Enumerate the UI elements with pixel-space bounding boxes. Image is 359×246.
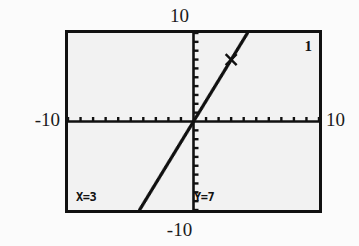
trace-x-readout: X=3 xyxy=(76,191,96,203)
x-max-label: 10 xyxy=(326,110,345,129)
graph-canvas xyxy=(68,33,319,210)
trace-y-readout: Y=7 xyxy=(194,191,214,203)
calculator-screen[interactable]: X=3 Y=7 1 xyxy=(65,30,322,213)
y-min-label: -10 xyxy=(0,220,359,239)
graph-geometry xyxy=(68,33,319,210)
x-min-label: -10 xyxy=(8,110,60,129)
y-max-label: 10 xyxy=(0,6,359,25)
plot-number-badge: 1 xyxy=(305,39,313,54)
plot-area[interactable] xyxy=(68,33,319,210)
